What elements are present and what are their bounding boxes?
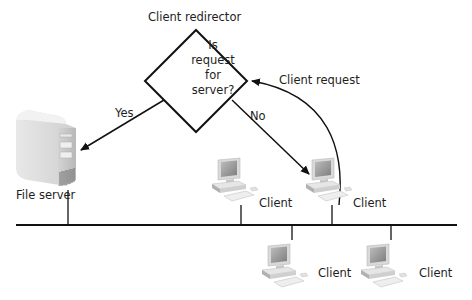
decision-line-2: request <box>168 53 258 68</box>
client-redirector-title: Client redirector <box>148 12 241 24</box>
file-server-label: File server <box>16 190 75 202</box>
yes-label: Yes <box>115 108 134 120</box>
no-arrow <box>232 100 309 174</box>
file-server-icon <box>16 110 76 186</box>
decision-line-3: for <box>168 68 258 83</box>
computer-icon-client-3 <box>262 244 308 287</box>
decision-line-1: Is <box>168 38 258 53</box>
computer-icon-client-4 <box>361 244 407 287</box>
computer-icon-client-2 <box>306 158 352 201</box>
client-request-label: Client request <box>279 75 360 87</box>
no-label: No <box>250 111 266 123</box>
computer-icon-client-1 <box>212 158 258 201</box>
client-label-2: Client <box>353 198 386 210</box>
client-label-1: Client <box>259 198 292 210</box>
client-label-4: Client <box>419 268 452 280</box>
decision-line-4: server? <box>168 83 258 98</box>
decision-text: Is request for server? <box>168 38 258 98</box>
client-label-3: Client <box>318 268 351 280</box>
